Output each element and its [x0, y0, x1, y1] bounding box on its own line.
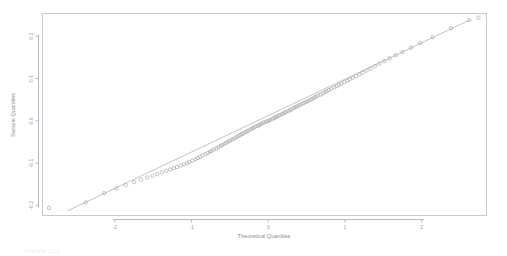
y-axis-tick-label: 0.0 — [28, 117, 34, 124]
qq-reference-line — [67, 20, 469, 211]
y-axis-tick-label: -0.2 — [28, 201, 34, 210]
x-axis-tick-label: -1 — [189, 224, 194, 230]
qq-data-point — [132, 180, 135, 183]
y-axis-tick-label: -0.1 — [28, 159, 34, 168]
data-points-group — [47, 16, 480, 210]
y-axis-tick-label: 0.2 — [28, 33, 34, 40]
qq-data-point — [47, 206, 50, 209]
qq-data-point — [145, 176, 148, 179]
x-axis-title: Theoretical Quantiles — [238, 233, 291, 239]
qq-data-point — [354, 74, 357, 77]
qq-plot-figure: -2-1012 -0.2-0.10.00.10.2 Theoretical Qu… — [0, 0, 507, 256]
x-axis-tick-label: 0 — [267, 224, 270, 230]
qq-data-point — [175, 165, 178, 168]
qq-data-point — [151, 174, 154, 177]
qq-data-point — [477, 16, 480, 19]
reference-line-group — [67, 20, 469, 211]
qq-data-point — [168, 168, 171, 171]
y-axis-tick-label: 0.1 — [28, 75, 34, 82]
y-axis-group: -0.2-0.10.00.10.2 — [28, 33, 38, 210]
qq-data-point — [165, 169, 168, 172]
figure-caption: FIGURE 12.1 — [24, 247, 174, 256]
x-axis-tick-label: -2 — [113, 224, 118, 230]
figure-caption-text: FIGURE 12.1 — [24, 247, 174, 256]
x-axis-tick-label: 2 — [420, 224, 423, 230]
y-axis-title: Sample Quantiles — [10, 93, 16, 137]
qq-data-point — [160, 171, 163, 174]
qq-data-point — [361, 71, 364, 74]
x-axis-tick-label: 1 — [344, 224, 347, 230]
qq-data-point — [139, 178, 142, 181]
qq-data-point — [124, 183, 127, 186]
qq-data-point — [155, 172, 158, 175]
qq-plot-canvas: -2-1012 -0.2-0.10.00.10.2 Theoretical Qu… — [0, 0, 507, 256]
x-axis-group: -2-1012 — [113, 220, 424, 231]
